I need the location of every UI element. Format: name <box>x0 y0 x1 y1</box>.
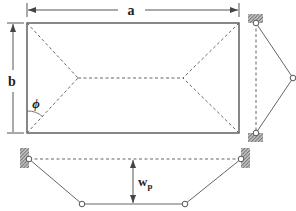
hinge-node <box>26 156 32 162</box>
front-elevation <box>20 148 250 207</box>
dimension-wp: wp <box>133 160 152 203</box>
dimension-a: a <box>27 3 239 18</box>
dimension-b: b <box>7 23 24 133</box>
hinge-node <box>290 75 296 81</box>
roof-yield-line-diagram: a b ϕ <box>0 0 296 211</box>
hinge-node <box>182 201 188 207</box>
label-a: a <box>128 3 135 18</box>
hinge-node <box>238 156 244 162</box>
side-elevation <box>248 14 296 142</box>
label-wp: wp <box>138 174 152 191</box>
angle-phi: ϕ <box>27 96 43 117</box>
hinge-node <box>79 201 85 207</box>
yield-lines <box>27 23 239 133</box>
label-b: b <box>8 74 16 89</box>
hinge-node <box>253 130 259 136</box>
hinge-node <box>253 20 259 26</box>
label-phi: ϕ <box>32 96 40 111</box>
